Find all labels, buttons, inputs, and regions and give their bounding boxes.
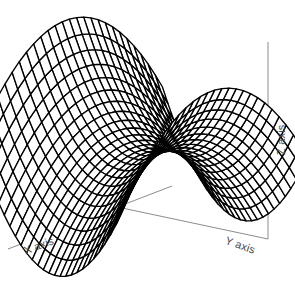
surface-plot-figure: X axis Y axis Z axis	[0, 0, 295, 283]
z-axis-label: Z axis	[275, 124, 287, 155]
